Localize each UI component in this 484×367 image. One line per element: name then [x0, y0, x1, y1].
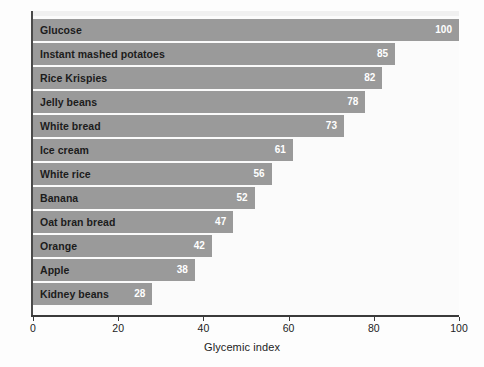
x-tick-label: 60 — [269, 322, 309, 334]
bar-row: 73White bread — [33, 115, 459, 139]
x-tick-mark — [118, 317, 119, 321]
bar-category-label: Instant mashed potatoes — [40, 43, 165, 65]
plot-top-edge — [33, 11, 459, 16]
x-axis-line — [31, 315, 459, 317]
bar-category-label: White bread — [40, 115, 101, 137]
bars-group: 100Glucose85Instant mashed potatoes82Ric… — [33, 19, 459, 307]
bar-value-label: 78 — [347, 91, 365, 113]
bar-category-label: White rice — [40, 163, 91, 185]
bar-value-label: 52 — [236, 187, 254, 209]
bar-row: 85Instant mashed potatoes — [33, 43, 459, 67]
bar-category-label: Glucose — [40, 19, 82, 41]
x-tick-label: 40 — [183, 322, 223, 334]
x-tick-mark — [289, 317, 290, 321]
bar-row: 42Orange — [33, 235, 459, 259]
x-tick-mark — [459, 317, 460, 321]
bar-category-label: Jelly beans — [40, 91, 97, 113]
bar-value-label: 73 — [326, 115, 344, 137]
bar-value-label: 61 — [275, 139, 293, 161]
bar-value-label: 100 — [435, 19, 459, 41]
x-tick-mark — [374, 317, 375, 321]
bar-category-label: Apple — [40, 259, 69, 281]
x-axis-title: Glycemic index — [0, 341, 484, 353]
bar-category-label: Banana — [40, 187, 78, 209]
bar-value-label: 85 — [377, 43, 395, 65]
bar-track: 100 — [33, 19, 459, 41]
bar-row: 47Oat bran bread — [33, 211, 459, 235]
bar-row: 52Banana — [33, 187, 459, 211]
bar-row: 61Ice cream — [33, 139, 459, 163]
x-tick-label: 80 — [354, 322, 394, 334]
bar-row: 28Kidney beans — [33, 283, 459, 307]
bar-category-label: Ice cream — [40, 139, 89, 161]
x-tick-label: 0 — [13, 322, 53, 334]
bar-rect: 100 — [33, 19, 459, 41]
bar-value-label: 42 — [194, 235, 212, 257]
bar-row: 78Jelly beans — [33, 91, 459, 115]
bar-category-label: Kidney beans — [40, 283, 109, 305]
glycemic-index-bar-chart: 100Glucose85Instant mashed potatoes82Ric… — [0, 0, 484, 367]
x-tick-label: 20 — [98, 322, 138, 334]
bar-value-label: 28 — [134, 283, 152, 305]
bar-row: 56White rice — [33, 163, 459, 187]
bar-value-label: 38 — [177, 259, 195, 281]
bar-row: 100Glucose — [33, 19, 459, 43]
bar-value-label: 56 — [253, 163, 271, 185]
bar-row: 38Apple — [33, 259, 459, 283]
bar-category-label: Rice Krispies — [40, 67, 107, 89]
bar-value-label: 47 — [215, 211, 233, 233]
x-tick-mark — [203, 317, 204, 321]
bar-row: 82Rice Krispies — [33, 67, 459, 91]
x-tick-mark — [33, 317, 34, 321]
bar-category-label: Oat bran bread — [40, 211, 115, 233]
bar-category-label: Orange — [40, 235, 77, 257]
x-tick-label: 100 — [439, 322, 479, 334]
bar-value-label: 82 — [364, 67, 382, 89]
